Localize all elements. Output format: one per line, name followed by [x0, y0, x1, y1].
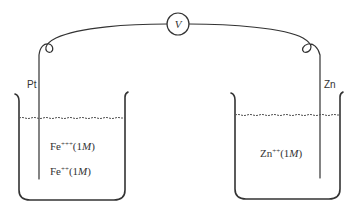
left-beaker: Fe+++(1M) Fe++(1M)	[15, 92, 128, 200]
right-beaker-liquid-surface	[235, 115, 340, 116]
right-beaker: Zn++(1M)	[231, 92, 343, 199]
voltmeter-symbol: V	[175, 18, 183, 30]
right-beaker-outline	[231, 92, 343, 199]
voltmeter: V	[167, 13, 189, 35]
galvanic-cell-diagram: V Pt Zn Fe+++(1M) Fe++(1M) Zn++(1M)	[0, 0, 357, 212]
left-wire	[39, 24, 167, 179]
solution-label-zn2: Zn++(1M)	[260, 147, 302, 160]
electrode-label-pt: Pt	[27, 79, 37, 90]
left-beaker-liquid-surface	[19, 118, 125, 119]
solution-label-fe2: Fe++(1M)	[50, 165, 91, 178]
electrode-label-zn: Zn	[324, 79, 336, 90]
solution-label-fe3: Fe+++(1M)	[50, 140, 95, 153]
